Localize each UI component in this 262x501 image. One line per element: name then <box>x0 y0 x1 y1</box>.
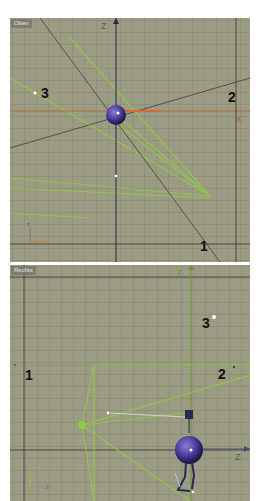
viewport-label: Oben <box>11 19 32 28</box>
viewport-bottom[interactable]: Rechts Y Z 1 3 2 y z <box>10 265 250 501</box>
figure-head <box>185 410 193 419</box>
viewport-bottom-canvas[interactable] <box>10 265 250 501</box>
sphere-object <box>175 436 203 464</box>
light-3-dot <box>212 315 216 319</box>
marker-2[interactable]: 2 <box>218 367 226 381</box>
marker-2[interactable]: 2 <box>228 90 236 104</box>
axis-label-horizontal: Z <box>235 453 241 462</box>
axis-label-vertical: Y <box>176 268 182 277</box>
gizmo-vertical-label: y <box>37 465 40 471</box>
marker-1[interactable]: 1 <box>200 239 208 253</box>
viewport-top-canvas[interactable] <box>10 18 250 262</box>
axis-label-vertical: Z <box>101 22 107 31</box>
light-dot <box>115 175 118 178</box>
axis-label-horizontal: X <box>236 115 242 124</box>
light-3-dot <box>33 91 36 94</box>
marker-3[interactable]: 3 <box>202 316 210 330</box>
marker-3[interactable]: 3 <box>41 86 49 100</box>
sphere-object <box>106 105 126 125</box>
viewport-top[interactable]: Oben Z X 3 2 1 z x <box>10 18 250 262</box>
viewport-label: Rechts <box>11 266 36 275</box>
gizmo-horizontal-label: x <box>47 239 50 245</box>
gizmo-horizontal-label: z <box>46 484 49 490</box>
gizmo-vertical-label: z <box>27 221 30 227</box>
marker-1[interactable]: 1 <box>25 368 33 382</box>
